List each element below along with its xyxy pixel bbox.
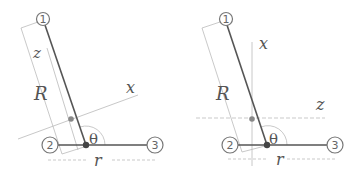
right-atom-2-label: 2	[227, 139, 234, 152]
right-x-label: x	[259, 34, 268, 53]
left-diagram: 1 2 3 z R x θ r	[18, 13, 163, 171]
left-theta-label: θ	[89, 130, 98, 148]
left-atom-1-label: 1	[40, 13, 47, 26]
left-atom-2-label: 2	[47, 139, 54, 152]
left-z-axis	[47, 48, 78, 150]
right-z-label: z	[315, 95, 325, 114]
left-r-label: r	[94, 151, 103, 170]
left-atom-3-label: 3	[152, 139, 159, 152]
diagram-canvas: 1 2 3 z R x θ r 1 2	[0, 0, 360, 176]
left-x-label: x	[126, 78, 135, 97]
right-diagram: 1 2 3 x R z θ r	[196, 13, 343, 170]
left-com-dot	[68, 116, 74, 122]
right-atom-3-label: 3	[332, 139, 339, 152]
right-R-label: R	[215, 83, 230, 104]
right-com-dot	[249, 116, 255, 122]
right-atom-1-label: 1	[223, 13, 230, 26]
left-R-label: R	[33, 83, 48, 104]
left-z-label: z	[32, 44, 41, 62]
right-r-label: r	[276, 150, 285, 169]
right-theta-label: θ	[269, 130, 278, 148]
